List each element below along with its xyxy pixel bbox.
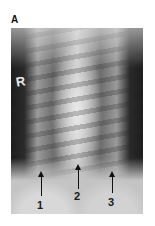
radiograph-image [11,28,143,214]
arrow-3-icon [112,176,113,193]
arrow-2-icon [78,169,79,189]
image-top-fade [11,28,143,68]
label-1: 1 [37,199,43,211]
panel-label: A [11,14,18,25]
label-2: 2 [74,190,80,202]
label-3: 3 [108,196,114,208]
arrow-1-icon [41,176,42,196]
